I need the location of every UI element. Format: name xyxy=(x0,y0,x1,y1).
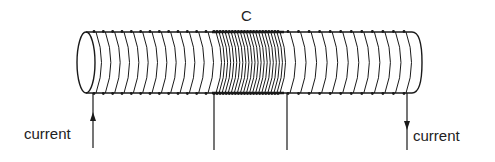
winding-turn-left xyxy=(189,32,195,93)
winding-bump xyxy=(329,30,332,33)
winding-turn-left xyxy=(115,32,121,93)
winding-bump xyxy=(158,30,161,33)
winding-bump xyxy=(371,92,374,95)
winding-bump xyxy=(392,92,395,95)
winding-bump xyxy=(297,30,300,33)
winding-bump xyxy=(403,92,406,95)
winding-bump xyxy=(308,92,311,95)
winding-bump xyxy=(102,92,105,95)
winding-bump xyxy=(382,30,385,33)
winding-bump xyxy=(186,92,189,95)
winding-turn-right xyxy=(353,32,359,93)
winding-turn-right xyxy=(364,32,370,93)
winding-bump xyxy=(392,30,395,33)
winding-turn-right xyxy=(322,32,328,93)
winding-bump xyxy=(360,30,363,33)
coil-section-label: C xyxy=(241,7,252,24)
winding-bump xyxy=(149,30,152,33)
winding-bump xyxy=(297,92,300,95)
winding-bump xyxy=(93,30,96,33)
winding-turn-left xyxy=(161,32,167,93)
winding-turn-left xyxy=(124,32,130,93)
winding-bump xyxy=(339,92,342,95)
winding-turn-right xyxy=(406,32,412,93)
current-in-label: current xyxy=(24,125,72,142)
winding-bump xyxy=(167,92,170,95)
winding-turn-left xyxy=(96,32,102,93)
winding-turn-right xyxy=(301,32,307,93)
winding-turn-dense xyxy=(216,32,222,93)
winding-bump xyxy=(139,92,142,95)
winding-turn-left xyxy=(199,32,205,93)
winding-bump xyxy=(382,92,385,95)
coil-windings xyxy=(93,30,412,95)
winding-turn-right xyxy=(395,32,401,93)
winding-bump xyxy=(177,92,180,95)
winding-turn-left xyxy=(180,32,186,93)
winding-bump xyxy=(111,30,114,33)
tube-left-end xyxy=(77,32,95,93)
winding-turn-right xyxy=(343,32,349,93)
winding-bump xyxy=(205,92,208,95)
winding-bump xyxy=(318,92,321,95)
winding-bump xyxy=(167,30,170,33)
winding-bump xyxy=(195,92,198,95)
winding-bump xyxy=(371,30,374,33)
arrow-up-icon xyxy=(90,112,96,121)
winding-bump xyxy=(339,30,342,33)
winding-bump xyxy=(130,92,133,95)
winding-bump xyxy=(205,30,208,33)
winding-bump xyxy=(186,30,189,33)
winding-bump xyxy=(350,92,353,95)
winding-turn-left xyxy=(143,32,149,93)
winding-bump xyxy=(177,30,180,33)
winding-bump xyxy=(308,30,311,33)
tube-right-end xyxy=(412,32,422,93)
winding-turn-right xyxy=(374,32,380,93)
winding-turn-left xyxy=(152,32,158,93)
winding-turn-left xyxy=(171,32,177,93)
lead-wires xyxy=(90,93,410,150)
winding-bump xyxy=(111,92,114,95)
winding-bump xyxy=(130,30,133,33)
winding-bump xyxy=(195,30,198,33)
winding-bump xyxy=(139,30,142,33)
current-out-label: current xyxy=(413,127,461,144)
winding-turn-right xyxy=(332,32,338,93)
winding-bump xyxy=(403,30,406,33)
winding-bump xyxy=(329,92,332,95)
winding-turn-left xyxy=(208,32,214,93)
winding-bump xyxy=(360,92,363,95)
solenoid-diagram: C current current xyxy=(0,0,495,162)
winding-bump xyxy=(287,30,290,33)
winding-bump xyxy=(318,30,321,33)
winding-bump xyxy=(102,30,105,33)
winding-turn-right xyxy=(290,32,296,93)
winding-turn-left xyxy=(105,32,111,93)
winding-turn-right xyxy=(385,32,391,93)
winding-bump xyxy=(158,92,161,95)
winding-bump xyxy=(149,92,152,95)
winding-turn-right xyxy=(311,32,317,93)
winding-bump xyxy=(121,92,124,95)
arrow-down-icon xyxy=(404,121,410,130)
winding-bump xyxy=(350,30,353,33)
winding-turn-left xyxy=(133,32,139,93)
winding-bump xyxy=(121,30,124,33)
